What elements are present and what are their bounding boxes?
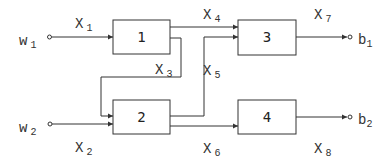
signal-label-x4: X4 — [203, 7, 220, 25]
signal-label-x6: X6 — [203, 141, 220, 159]
signal-label-x1: X1 — [75, 16, 92, 34]
signal-label-x2: X2 — [75, 140, 92, 158]
block-2-label: 2 — [137, 109, 145, 125]
block-3: 3 — [238, 20, 296, 55]
signal-label-x5: X5 — [203, 63, 220, 81]
output-label-b1: b1 — [358, 32, 372, 50]
block-3-label: 3 — [263, 29, 271, 45]
output-label-b2: b2 — [358, 112, 372, 130]
input-terminal-w1 — [48, 35, 52, 39]
output-terminal-b2 — [348, 115, 352, 119]
input-label-w1: w1 — [19, 33, 36, 51]
input-label-w2: w2 — [19, 120, 36, 138]
output-terminal-b1 — [348, 35, 352, 39]
input-terminal-w2 — [48, 122, 52, 126]
block-diagram: 1 2 3 4 w1 w2 b1 b2 X1 X2 X3 X4 X5 X6 X7… — [0, 0, 391, 165]
block-1-label: 1 — [137, 29, 145, 45]
signal-label-x8: X8 — [314, 141, 331, 159]
block-2: 2 — [113, 100, 170, 134]
block-1: 1 — [113, 20, 170, 54]
block-4: 4 — [238, 100, 296, 134]
signal-label-x7: X7 — [314, 7, 331, 25]
block-4-label: 4 — [263, 109, 271, 125]
